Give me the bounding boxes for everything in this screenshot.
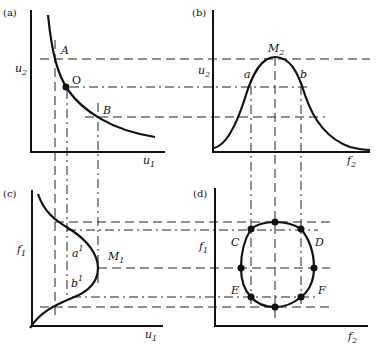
panel-b: (b) M2 a b u2 f2 xyxy=(192,7,370,169)
panel-c: (c) a1 b1 M1 f1 u1 xyxy=(3,188,163,343)
point-left xyxy=(238,265,245,272)
panel-b-tag: (b) xyxy=(192,7,206,18)
label-b-lower: b xyxy=(300,68,307,81)
four-panel-diagram: (a) A O B u2 u1 (b) M2 a b u2 f2 (c) a1 … xyxy=(0,0,380,348)
point-o xyxy=(63,84,70,91)
panel-c-curve xyxy=(30,194,98,328)
point-f xyxy=(298,294,305,301)
label-b-upper: B xyxy=(102,104,111,117)
label-e: E xyxy=(230,284,239,297)
label-d: D xyxy=(314,236,324,249)
label-a1: a1 xyxy=(72,244,84,260)
panel-d-y-label: f1 xyxy=(198,240,208,255)
panel-b-y-label: u2 xyxy=(198,64,210,79)
panel-d-tag: (d) xyxy=(193,188,207,199)
panel-d: (d) C D E F f1 f2 xyxy=(193,188,368,345)
label-m1: M1 xyxy=(107,250,124,265)
label-o: O xyxy=(72,74,81,87)
panel-c-x-label: u1 xyxy=(145,328,157,343)
panel-b-curve xyxy=(214,57,370,150)
panel-c-tag: (c) xyxy=(3,188,17,199)
point-top xyxy=(272,219,279,226)
panel-a-x-label: u1 xyxy=(143,154,155,169)
projection-lines xyxy=(40,40,370,320)
label-f: F xyxy=(317,284,326,297)
panel-a-curve xyxy=(48,15,155,137)
panel-d-x-label: f2 xyxy=(347,330,357,345)
panel-d-axes xyxy=(215,188,368,326)
panel-a-tag: (a) xyxy=(3,7,17,18)
point-bottom xyxy=(272,304,279,311)
panel-a: (a) A O B u2 u1 xyxy=(3,7,165,169)
label-b1: b1 xyxy=(71,274,83,290)
panel-a-y-label: u2 xyxy=(15,62,27,77)
label-c: C xyxy=(231,236,240,249)
point-right xyxy=(311,265,318,272)
panel-b-x-label: f2 xyxy=(346,154,356,169)
point-d xyxy=(298,226,305,233)
point-c xyxy=(248,226,255,233)
label-a-lower: a xyxy=(244,68,251,81)
label-a-upper: A xyxy=(60,44,69,57)
label-m2: M2 xyxy=(267,42,284,57)
point-e xyxy=(248,294,255,301)
panel-c-y-label: f1 xyxy=(16,243,26,258)
panel-b-axes xyxy=(213,10,370,152)
